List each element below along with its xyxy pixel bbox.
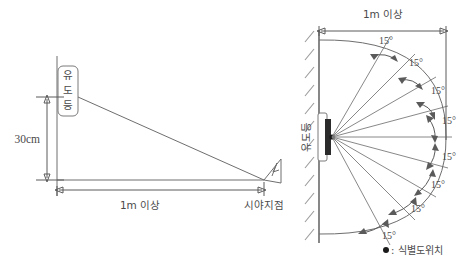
plan-ray-plus-45 [332, 137, 415, 220]
side-view-point-label: 시야지점 [244, 199, 284, 211]
plan-ray-minus-45 [332, 54, 415, 137]
side-distance-dimension-label: 1m 이상 [120, 199, 160, 211]
side-elevation-view: 유 도 등 30cm 1m 이상 [14, 56, 284, 211]
eye-outer-triangle [264, 159, 281, 183]
plan-distance-dimension-label: 1m 이상 [363, 8, 403, 20]
plan-angle-label-2: 15° [409, 57, 423, 68]
plan-angle-arrow-2a [398, 77, 407, 84]
exit-light-visibility-figure: 유 도 등 30cm 1m 이상 [0, 0, 472, 265]
plan-angle-arrow-5a [432, 143, 439, 151]
plan-ray-minus-60 [332, 37, 390, 137]
legend-separator: : [391, 245, 394, 256]
plan-fixture-label: 유도등 [300, 122, 312, 152]
plan-angle-arrow-6a [429, 169, 436, 177]
side-fixture-label-char-2: 도 [63, 84, 73, 96]
plan-angle-arrow-2b [415, 83, 423, 90]
plan-angle-label-4: 15° [442, 115, 456, 126]
legend-label: 식별도위치 [398, 244, 443, 256]
eye-arrow-icon [264, 159, 281, 183]
plan-angle-label-7: 15° [411, 203, 425, 214]
plan-angle-label-1: 15° [379, 35, 393, 46]
plan-angle-label-8: 15° [382, 230, 396, 241]
plan-angle-label-3: 15° [431, 85, 445, 96]
plan-fan-view: 유도등 [300, 8, 456, 256]
plan-angle-arc-markers: 15° 15° 15° 15° 15° [358, 35, 456, 241]
plan-angle-arrow-1b [390, 55, 398, 62]
side-sight-line [78, 97, 264, 180]
plan-ray-plus-60 [332, 137, 390, 245]
plan-angle-label-6: 15° [431, 179, 445, 190]
plan-ray-plus-30 [332, 137, 436, 197]
plan-angle-label-5: 15° [442, 151, 456, 162]
side-fixture-label-char-3: 등 [63, 99, 73, 111]
legend-dot-icon [383, 247, 389, 253]
side-height-dimension-label: 30cm [14, 133, 40, 145]
side-fixture-label-char-1: 유 [63, 69, 73, 81]
plan-angle-arrow-4b [431, 135, 438, 143]
